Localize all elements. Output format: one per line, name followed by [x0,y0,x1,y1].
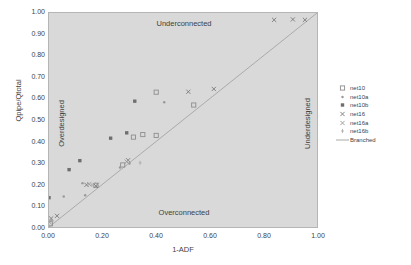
legend-glyph [341,129,344,133]
chart-legend: net10net10anet10bnet16net16anet16bBranch… [336,84,410,144]
legend-marker-icon [336,84,350,92]
reference-line-branched [49,13,317,227]
legend-marker-icon [336,93,350,101]
y-tick-label: 0.50 [1,116,45,124]
data-point [192,103,196,107]
data-point [131,135,135,139]
data-point [186,90,190,94]
y-tick-label: 0.70 [1,73,45,81]
legend-item-net10b[interactable]: net10b [336,101,410,110]
data-point [139,161,142,165]
x-axis-title: 1-ADF [48,245,318,254]
legend-marker-icon [336,110,350,118]
data-point [62,195,64,197]
legend-label: net16b [350,127,368,135]
legend-item-Branched[interactable]: Branched [336,136,410,145]
legend-label: net16 [350,110,365,118]
plot-area: Underconnected Overconnected Overdesigne… [48,12,318,228]
y-axis-title: Qpipe/Qtotal [14,61,23,141]
scatter-chart-figure: 0.000.100.200.300.400.500.600.700.800.90… [0,0,411,265]
legend-marker-icon [336,119,350,127]
y-tick-label: 0.40 [1,138,45,146]
series-net16 [49,17,307,220]
legend-glyph [340,86,344,90]
legend-marker-icon [336,101,350,109]
legend-glyph [341,104,344,107]
legend-glyph [341,96,344,99]
data-point [119,166,121,168]
x-tick-label: 0.60 [190,232,230,240]
legend-item-net16[interactable]: net16 [336,110,410,119]
series-net10a [50,101,165,222]
data-point [133,99,136,102]
data-point [81,182,83,184]
data-point [109,137,112,140]
data-point [212,87,216,91]
y-tick-label: 0.10 [1,202,45,210]
data-point [67,168,70,171]
data-point [125,160,129,164]
data-point [84,194,86,196]
y-tick-label: 0.20 [1,181,45,189]
data-point [141,132,145,136]
data-point [49,196,51,199]
legend-item-net10a[interactable]: net10a [336,93,410,102]
x-tick-label: 1.00 [298,232,338,240]
legend-glyph [340,112,344,116]
x-tick-label: 0.00 [28,232,68,240]
legend-glyph [340,121,344,125]
y-axis-tick-labels: 0.000.100.200.300.400.500.600.700.800.90… [0,0,45,265]
y-tick-label: 1.00 [1,8,45,16]
plot-canvas [49,13,317,227]
legend-label: net10b [350,101,368,109]
series-net10 [49,90,196,226]
legend-label: net10a [350,93,368,101]
annotation-underdesigned: Underdesigned [303,64,312,184]
legend-item-net10[interactable]: net10 [336,84,410,93]
annotation-overconnected: Overconnected [49,208,318,217]
annotation-overdesigned: Overdesigned [57,64,66,184]
x-axis-tick-labels: 0.000.200.400.600.801.00 [0,232,411,244]
data-point [125,131,128,134]
legend-label: net16a [350,119,368,127]
data-point [154,133,158,137]
x-tick-label: 0.20 [82,232,122,240]
data-point [121,163,125,167]
legend-marker-icon [336,127,350,135]
y-tick-label: 0.60 [1,94,45,102]
legend-marker-icon [336,136,350,144]
x-tick-label: 0.80 [244,232,284,240]
data-point [154,90,158,94]
y-tick-label: 0.80 [1,51,45,59]
legend-item-net16b[interactable]: net16b [336,127,410,136]
x-tick-label: 0.40 [136,232,176,240]
legend-label: Branched [350,136,376,144]
annotation-underconnected: Underconnected [49,19,318,28]
y-tick-label: 0.30 [1,159,45,167]
data-point [78,159,81,162]
data-point [163,101,165,103]
legend-label: net10 [350,84,365,92]
legend-item-net16a[interactable]: net16a [336,118,410,127]
y-tick-label: 0.00 [1,224,45,232]
y-tick-label: 0.90 [1,30,45,38]
